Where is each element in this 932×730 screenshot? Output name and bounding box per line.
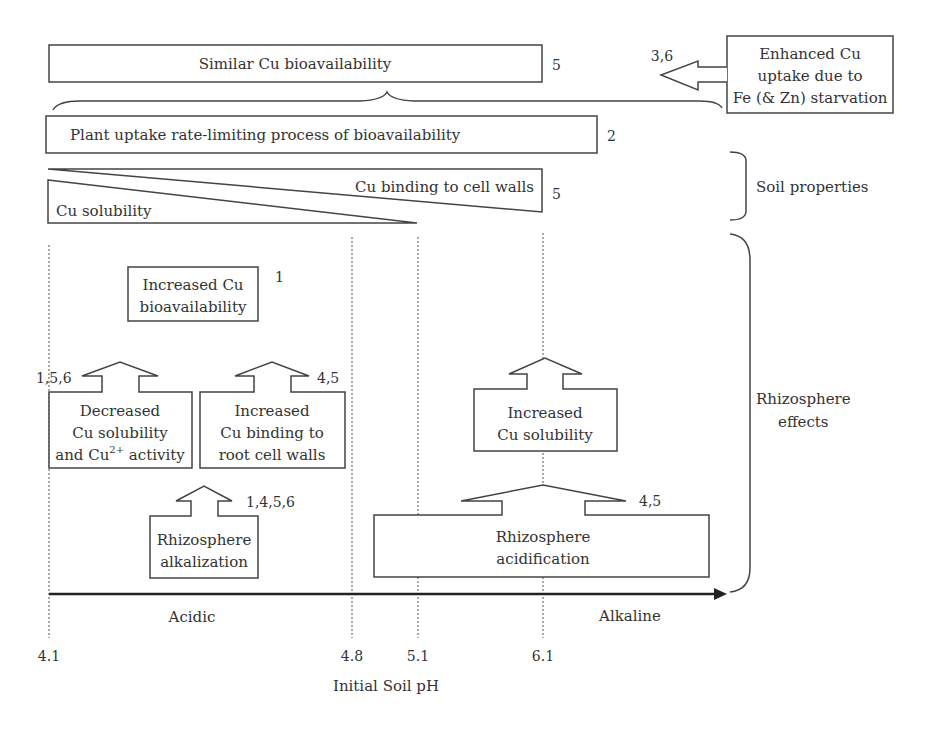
tick-label-5-1: 5.1 xyxy=(407,648,429,664)
enhanced-uptake-box: Enhanced Cu uptake due to Fe (& Zn) star… xyxy=(727,36,893,113)
enhanced-uptake-line-2: uptake due to xyxy=(758,67,863,85)
alkalization-line-1: Rhizosphere xyxy=(157,531,252,549)
tick-label-4-1: 4.1 xyxy=(38,648,60,664)
plant-uptake-box: Plant uptake rate-limiting process of bi… xyxy=(46,116,597,153)
cu-binding-ref: 5 xyxy=(552,186,561,202)
enhanced-uptake-ref: 3,6 xyxy=(651,48,673,64)
increased-binding-line-1: Increased xyxy=(234,402,310,420)
increased-bioavailability-line-1: Increased Cu xyxy=(142,276,243,294)
top-curly-brace xyxy=(53,92,722,110)
enhanced-uptake-line-1: Enhanced Cu xyxy=(759,45,861,63)
similar-bioavailability-label: Similar Cu bioavailability xyxy=(199,55,392,73)
increased-bioavailability-ref: 1 xyxy=(275,269,284,285)
plant-uptake-ref: 2 xyxy=(607,128,616,144)
increased-binding-line-3: root cell walls xyxy=(219,446,326,464)
increased-binding-line-2: Cu binding to xyxy=(220,424,323,442)
plant-uptake-label: Plant uptake rate-limiting process of bi… xyxy=(70,126,461,144)
soil-properties-label: Soil properties xyxy=(756,178,869,196)
similar-bioavailability-ref: 5 xyxy=(552,57,561,73)
ph-axis xyxy=(49,588,727,600)
increased-bioavailability-line-2: bioavailability xyxy=(140,298,247,316)
decreased-solubility-line-2: Cu solubility xyxy=(72,424,168,442)
rhizosphere-effects-bracket xyxy=(730,234,750,592)
increased-solubility-line-2: Cu solubility xyxy=(497,426,593,444)
increased-bioavailability-box: Increased Cu bioavailability xyxy=(128,267,258,321)
increased-solubility-arrow-box: Increased Cu solubility xyxy=(474,358,617,451)
decreased-solubility-line-1: Decreased xyxy=(80,402,161,420)
acidic-label: Acidic xyxy=(168,608,216,626)
alkalization-line-2: alkalization xyxy=(160,553,248,571)
acidification-ref: 4,5 xyxy=(639,493,661,509)
cu-binding-label: Cu binding to cell walls xyxy=(355,178,534,196)
enhanced-uptake-line-3: Fe (& Zn) starvation xyxy=(733,89,888,107)
increased-binding-ref: 4,5 xyxy=(317,370,339,386)
acidification-line-2: acidification xyxy=(496,550,590,568)
copper-bioavailability-diagram: Similar Cu bioavailability 5 Enhanced Cu… xyxy=(0,0,932,730)
acidification-line-1: Rhizosphere xyxy=(496,528,591,546)
decreased-solubility-ref: 1,5,6 xyxy=(36,370,72,386)
rhizosphere-label-line-2: effects xyxy=(778,413,829,431)
left-arrow-icon xyxy=(661,61,727,90)
alkaline-label: Alkaline xyxy=(598,607,661,625)
rhizosphere-label-line-1: Rhizosphere xyxy=(756,390,851,408)
axis-title: Initial Soil pH xyxy=(333,677,439,695)
right-arrow-icon xyxy=(714,588,727,600)
alkalization-arrow-box: Rhizosphere alkalization xyxy=(150,486,258,578)
soil-properties-bracket xyxy=(730,152,746,220)
increased-solubility-line-1: Increased xyxy=(507,404,583,422)
tick-label-4-8: 4.8 xyxy=(341,648,363,664)
similar-bioavailability-box: Similar Cu bioavailability xyxy=(49,45,542,82)
alkalization-ref: 1,4,5,6 xyxy=(246,494,295,510)
tick-label-6-1: 6.1 xyxy=(532,648,554,664)
cu-solubility-label: Cu solubility xyxy=(56,202,152,220)
